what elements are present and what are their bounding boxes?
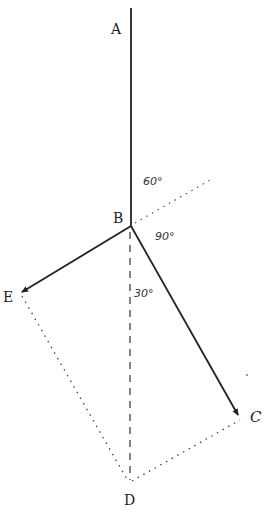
angle-60: 60°: [143, 175, 163, 188]
force-diagram: A B E C D 60° 90° 30°: [0, 0, 273, 532]
dotted-ed: [22, 296, 128, 481]
label-b: B: [113, 210, 123, 226]
dotted-dc: [132, 420, 240, 481]
angle-30: 30°: [134, 287, 154, 300]
vector-bc: [131, 226, 238, 415]
label-a: A: [110, 21, 122, 37]
label-d: D: [124, 492, 135, 508]
stray-mark: [246, 374, 248, 376]
label-e: E: [3, 289, 13, 305]
label-c: C: [250, 408, 262, 426]
vector-be: [22, 226, 131, 292]
angle-90: 90°: [155, 230, 175, 243]
